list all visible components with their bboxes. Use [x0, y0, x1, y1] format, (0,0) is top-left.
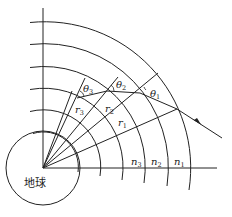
theta1-label: θ1	[150, 88, 160, 101]
n2-label: n2	[151, 156, 162, 169]
angle-arc-theta1	[144, 87, 146, 90]
theta3-label: θ3	[83, 83, 93, 96]
earth-label: 地球	[24, 176, 46, 190]
theta2-label: θ2	[116, 79, 126, 92]
n3-label: n3	[131, 156, 142, 169]
r3-label: r3	[75, 104, 84, 117]
angle-arc-theta2	[111, 85, 114, 91]
r1-label: r1	[118, 117, 127, 130]
r2-label: r2	[105, 103, 114, 116]
radial-line	[43, 73, 158, 168]
n1-label: n1	[174, 156, 185, 169]
radial-line	[43, 78, 85, 168]
refraction-diagram: θ3 θ2 θ1 r3 r2 r1 n3 n2 n1 地球	[0, 0, 232, 217]
atmosphere-arc-6	[30, 22, 191, 190]
